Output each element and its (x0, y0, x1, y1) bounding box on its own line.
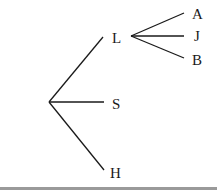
edge-root-l (49, 37, 103, 102)
node-a-label: A (192, 6, 203, 22)
bottom-border (0, 187, 217, 190)
node-b-label: B (192, 52, 202, 68)
node-l-label: L (112, 30, 121, 46)
node-s-label: S (112, 96, 120, 112)
edge-root-h (49, 102, 104, 170)
edge-l-b (131, 36, 184, 58)
node-h-label: H (110, 165, 121, 181)
edge-l-a (131, 13, 184, 36)
node-j-label: J (194, 28, 200, 44)
tree-diagram: L S H A J B (0, 0, 217, 190)
